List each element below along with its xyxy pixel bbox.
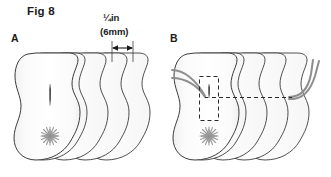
dimension-arrowhead-right	[127, 45, 133, 51]
panel-b-starburst-icon	[200, 127, 218, 145]
dimension-label-imperial: ¼in	[103, 13, 119, 23]
panel-b-slit-mark	[208, 84, 210, 98]
panel-a-slit-mark	[49, 84, 51, 106]
panel-a-label: A	[11, 33, 19, 44]
panel-a-stack	[14, 53, 150, 160]
panel-b-label: B	[170, 33, 178, 44]
dimension-label-metric: (6mm)	[100, 27, 129, 37]
panel-a-starburst-icon	[41, 127, 59, 145]
panel-b-stack	[172, 53, 319, 160]
figure-root: Fig 8 A B ¼in (6mm)	[0, 0, 331, 177]
figure-artwork	[0, 0, 331, 177]
figure-title: Fig 8	[27, 6, 55, 18]
dimension-arrowhead-left	[112, 45, 118, 51]
